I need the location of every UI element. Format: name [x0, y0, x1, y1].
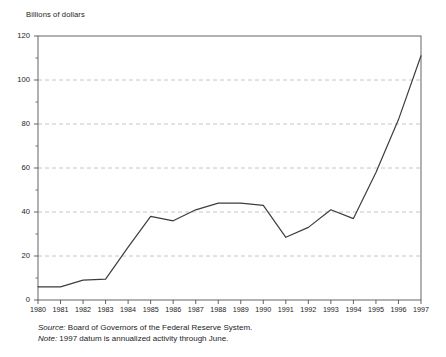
- y-tick-label-40: 40: [4, 208, 30, 216]
- x-tick-label-1997: 1997: [408, 306, 434, 314]
- data-line-series: [38, 56, 421, 287]
- source-text: Board of Governors of the Federal Reserv…: [66, 323, 253, 332]
- note-label: Note:: [38, 334, 57, 343]
- source-label: Source:: [38, 323, 66, 332]
- y-tick-label-0: 0: [4, 296, 30, 304]
- y-major-ticks-group: [34, 36, 38, 300]
- plot-area: 020406080100120 198019811982198319841985…: [0, 0, 446, 357]
- y-tick-label-20: 20: [4, 252, 30, 260]
- chart-figure: Billions of dollars 020406080100120 1980…: [0, 0, 446, 357]
- note-text: 1997 datum is annualized activity throug…: [57, 334, 228, 343]
- note-note: Note: 1997 datum is annualized activity …: [38, 333, 252, 344]
- x-ticks-group: [38, 300, 421, 304]
- line-chart-svg: [0, 0, 446, 357]
- y-tick-label-100: 100: [4, 76, 30, 84]
- y-tick-label-60: 60: [4, 164, 30, 172]
- footnotes-block: Source: Board of Governors of the Federa…: [38, 322, 252, 344]
- gridlines-group: [38, 80, 421, 256]
- source-note: Source: Board of Governors of the Federa…: [38, 322, 252, 333]
- y-tick-label-80: 80: [4, 120, 30, 128]
- y-tick-label-120: 120: [4, 32, 30, 40]
